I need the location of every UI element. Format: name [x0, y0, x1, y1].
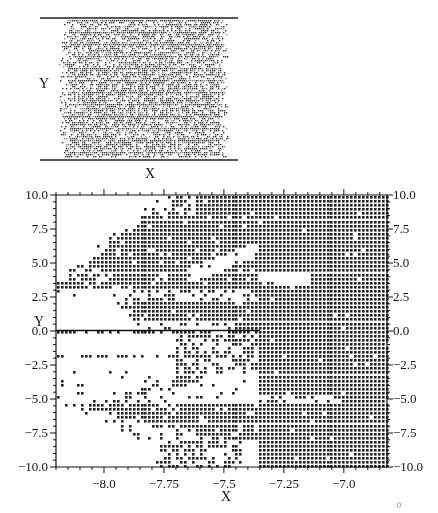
y-tick-label-left: −5.0 — [0, 392, 48, 405]
main-y-axis-label: Y — [34, 315, 44, 329]
x-tick-label: −8.0 — [79, 477, 129, 490]
y-tick-label-left: 10.0 — [0, 188, 48, 201]
y-tick-label-right: −5.0 — [393, 392, 417, 405]
y-tick-label-right: −7.5 — [393, 426, 417, 439]
x-tick-label: −7.25 — [259, 477, 309, 490]
main-x-axis-label: X — [221, 490, 231, 504]
y-tick-label-right: 7.5 — [393, 222, 409, 235]
y-tick-label-left: 5.0 — [0, 256, 48, 269]
y-tick-label-left: 7.5 — [0, 222, 48, 235]
y-tick-label-right: −2.5 — [393, 358, 417, 371]
y-tick-label-right: 10.0 — [393, 188, 416, 201]
y-tick-label-left: 2.5 — [0, 290, 48, 303]
corner-page-mark: 0 — [397, 501, 401, 510]
x-tick-label: −7.0 — [319, 477, 369, 490]
y-tick-label-right: −10.0 — [393, 460, 423, 473]
main-plot-axes — [0, 0, 438, 513]
y-tick-label-left: −2.5 — [0, 358, 48, 371]
y-tick-label-right: 5.0 — [393, 256, 409, 269]
y-tick-label-right: 2.5 — [393, 290, 409, 303]
y-tick-label-left: −7.5 — [0, 426, 48, 439]
y-tick-label-left: −10.0 — [0, 460, 48, 473]
y-tick-label-right: 0.0 — [393, 324, 409, 337]
x-tick-label: −7.75 — [139, 477, 189, 490]
